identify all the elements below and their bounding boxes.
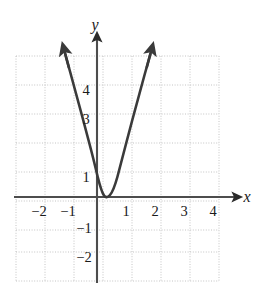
x-tick-label: 3 [180,203,187,219]
x-tick-label: 4 [209,203,217,219]
parabola-plot: y x −2 −1 1 2 3 4 4 3 1 −1 −2 [0,0,268,293]
graph-figure: y x −2 −1 1 2 3 4 4 3 1 −1 −2 [0,0,268,293]
y-tick-label: −2 [76,249,91,265]
y-tick-label: 4 [82,82,90,98]
x-tick-label: −2 [31,203,46,219]
x-axis-label: x [242,188,250,205]
y-axis-label: y [89,16,99,34]
x-tick-label: 1 [122,203,129,219]
x-tick-label: −1 [60,203,75,219]
x-tick-label: 2 [151,203,158,219]
y-tick-label: −1 [76,220,91,236]
y-tick-label: 1 [82,169,89,185]
parabola-curve [64,50,151,197]
grid-lines [16,56,219,281]
y-tick-label: 3 [82,111,89,127]
